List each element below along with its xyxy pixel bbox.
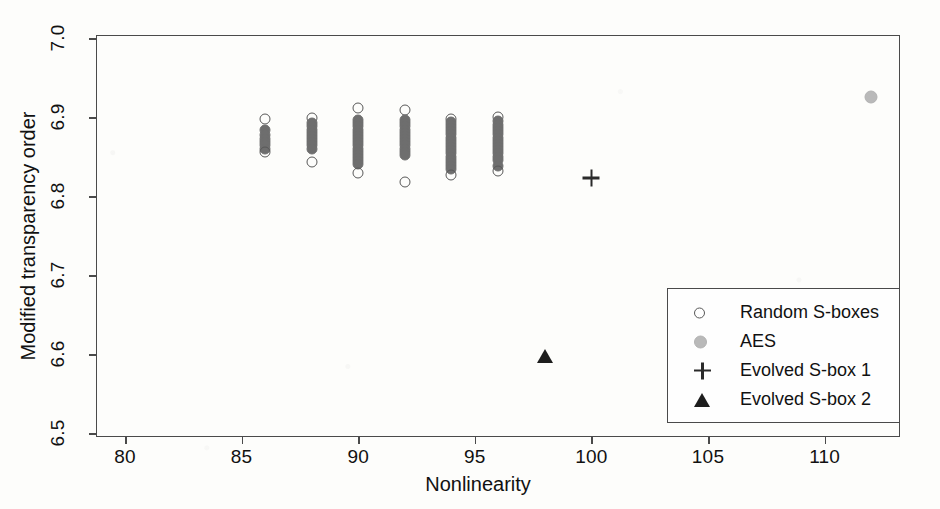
y-tick-mark xyxy=(89,433,96,435)
x-tick-mark xyxy=(708,437,710,444)
y-tick-label: 6.5 xyxy=(47,419,69,446)
x-axis-title: Nonlinearity xyxy=(425,473,531,496)
data-point-open-circle xyxy=(399,176,410,187)
y-tick-label: 6.7 xyxy=(47,261,69,288)
legend-label: Evolved S-box 1 xyxy=(740,360,871,381)
x-tick-mark xyxy=(825,437,827,444)
legend-entry: Evolved S-box 2 xyxy=(668,385,899,414)
x-tick-label: 85 xyxy=(231,446,253,468)
data-point-open-circle xyxy=(446,170,457,181)
y-tick-mark xyxy=(89,354,96,356)
x-tick-label: 105 xyxy=(692,446,724,468)
x-tick-mark xyxy=(242,437,244,444)
y-tick-mark xyxy=(89,196,96,198)
legend-entry: Evolved S-box 1 xyxy=(668,356,899,385)
data-point-filled-circle-gray xyxy=(865,91,878,104)
data-point-open-circle xyxy=(493,165,504,176)
data-point-plus xyxy=(583,169,600,186)
legend-marker-open-circle-icon xyxy=(686,303,740,323)
filled-circle-gray-icon xyxy=(694,335,707,348)
x-tick-label: 80 xyxy=(114,446,136,468)
data-point-open-circle xyxy=(306,157,317,168)
x-tick-label: 100 xyxy=(575,446,607,468)
legend-marker-filled-circle-gray-icon xyxy=(686,332,740,352)
plus-icon xyxy=(694,362,711,379)
legend-label: AES xyxy=(740,331,776,352)
x-tick-label: 90 xyxy=(347,446,369,468)
legend-label: Random S-boxes xyxy=(740,302,879,323)
data-point-open-circle xyxy=(399,149,410,160)
legend-label: Evolved S-box 2 xyxy=(740,389,871,410)
y-tick-label: 6.9 xyxy=(47,103,69,130)
y-tick-label: 7.0 xyxy=(47,24,69,51)
y-tick-label: 6.8 xyxy=(47,182,69,209)
legend-marker-filled-triangle-icon xyxy=(686,390,740,410)
y-tick-mark xyxy=(89,117,96,119)
data-point-open-circle xyxy=(353,103,364,114)
data-point-open-circle xyxy=(259,146,270,157)
filled-triangle-icon xyxy=(694,393,710,407)
y-tick-mark xyxy=(89,275,96,277)
data-point-open-circle xyxy=(306,143,317,154)
x-tick-mark xyxy=(125,437,127,444)
x-tick-mark xyxy=(358,437,360,444)
y-tick-label: 6.6 xyxy=(47,340,69,367)
legend-box: Random S-boxesAESEvolved S-box 1Evolved … xyxy=(667,288,900,423)
y-tick-mark xyxy=(89,38,96,40)
data-point-filled-triangle xyxy=(537,349,553,363)
x-tick-label: 95 xyxy=(464,446,486,468)
legend-entry: Random S-boxes xyxy=(668,298,899,327)
data-point-open-circle xyxy=(353,168,364,179)
x-tick-mark xyxy=(591,437,593,444)
x-tick-label: 110 xyxy=(809,446,840,468)
legend-marker-plus-icon xyxy=(686,361,740,381)
scatter-plot-figure: 80859095100105110 6.56.66.76.86.97.0 Non… xyxy=(0,0,940,509)
open-circle-icon xyxy=(694,307,705,318)
legend-entry: AES xyxy=(668,327,899,356)
y-axis-title: Modified transparency order xyxy=(17,111,40,360)
x-tick-mark xyxy=(475,437,477,444)
